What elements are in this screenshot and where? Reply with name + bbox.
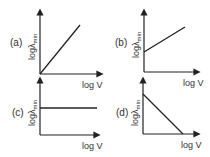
panel-b: (b) log V logλmin — [115, 12, 204, 88]
data-line — [143, 94, 183, 134]
panel-a: (a) log V logλmin — [10, 12, 103, 90]
x-axis-label: log V — [183, 78, 204, 88]
panel-label: (a) — [10, 37, 22, 48]
data-line — [40, 25, 80, 74]
y-axis-label: logλmin — [130, 100, 141, 126]
x-axis-label: log V — [181, 140, 202, 150]
panel-label: (c) — [12, 107, 24, 118]
panel-d: (d) log V logλmin — [116, 80, 202, 150]
y-axis-label: logλmin — [27, 34, 38, 60]
panel-label: (d) — [116, 107, 128, 118]
graph-options-figure: (a) log V logλmin (b) log V logλmin (c) … — [0, 0, 210, 157]
panel-c: (c) log V logλmin — [12, 80, 103, 151]
y-axis-label: logλmin — [131, 32, 142, 58]
panel-label: (b) — [115, 37, 127, 48]
x-axis-label: log V — [82, 80, 103, 90]
x-axis-label: log V — [82, 141, 103, 151]
data-line — [144, 27, 185, 52]
y-axis-label: logλmin — [27, 100, 38, 126]
